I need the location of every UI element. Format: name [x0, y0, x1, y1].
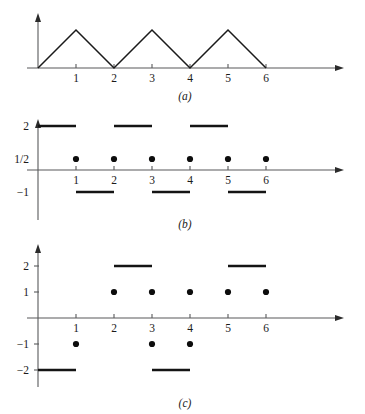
x-tick-label-4: 4 — [187, 322, 193, 334]
data-point-5 — [263, 156, 269, 162]
panel-a-tick-labels: 123456 — [73, 72, 269, 84]
data-point-3 — [225, 289, 231, 295]
x-tick-label-6: 6 — [263, 72, 269, 84]
series-triangle-wave — [38, 30, 266, 68]
panel-b-plot: 123456 21/2−1 (b) — [0, 110, 365, 235]
y-tick-label-0: 2 — [23, 120, 29, 132]
x-tick-label-2: 2 — [111, 174, 117, 186]
x-tick-label-3: 3 — [149, 174, 155, 186]
x-tick-label-1: 1 — [73, 72, 79, 84]
panel-a-series — [38, 30, 266, 68]
panel-b-axes — [27, 119, 344, 220]
x-axis-arrow-icon — [335, 167, 344, 173]
x-tick-label-1: 1 — [73, 174, 79, 186]
panel-c: 123456 21−1−2 (c) — [0, 235, 365, 414]
x-tick-label-4: 4 — [187, 72, 193, 84]
x-axis-arrow-icon — [335, 315, 344, 321]
y-tick-label-2: −1 — [17, 186, 29, 198]
panel-b: 123456 21/2−1 (b) — [0, 110, 365, 235]
figure-container: 123456 (a) 123456 21/2−1 (b) — [0, 0, 365, 414]
x-tick-label-2: 2 — [111, 72, 117, 84]
x-tick-label-6: 6 — [263, 322, 269, 334]
panel-a-ticks — [76, 64, 266, 68]
data-point-4 — [225, 156, 231, 162]
data-point-7 — [187, 341, 193, 347]
panel-a: 123456 (a) — [0, 0, 365, 110]
x-tick-label-4: 4 — [187, 174, 193, 186]
data-point-3 — [187, 156, 193, 162]
panel-c-axes — [27, 244, 344, 387]
data-point-6 — [149, 341, 155, 347]
data-point-2 — [149, 156, 155, 162]
data-point-4 — [263, 289, 269, 295]
panel-b-ticks — [76, 166, 266, 170]
panel-c-caption: (c) — [179, 397, 192, 410]
panel-b-points — [73, 156, 269, 162]
data-point-1 — [111, 156, 117, 162]
y-axis-arrow-icon — [35, 13, 41, 22]
y-tick-label-2: −1 — [17, 338, 29, 350]
panel-b-axis-labels: 21/2−1 — [14, 120, 29, 198]
panel-a-plot: 123456 (a) — [0, 0, 365, 110]
x-tick-label-3: 3 — [149, 72, 155, 84]
y-axis-arrow-icon — [35, 244, 41, 253]
x-tick-label-5: 5 — [225, 322, 231, 334]
x-axis-arrow-icon — [335, 65, 344, 71]
data-point-5 — [73, 341, 79, 347]
panel-c-plot: 123456 21−1−2 (c) — [0, 235, 365, 414]
x-tick-label-3: 3 — [149, 322, 155, 334]
x-tick-label-5: 5 — [225, 72, 231, 84]
x-tick-label-5: 5 — [225, 174, 231, 186]
y-tick-label-1: 1/2 — [14, 153, 29, 165]
y-tick-label-3: −2 — [17, 364, 29, 376]
x-tick-label-6: 6 — [263, 174, 269, 186]
panel-b-caption: (b) — [178, 218, 192, 231]
data-point-1 — [149, 289, 155, 295]
data-point-2 — [187, 289, 193, 295]
x-tick-label-1: 1 — [73, 322, 79, 334]
panel-c-tick-labels: 123456 — [73, 322, 269, 334]
panel-a-caption: (a) — [178, 90, 192, 103]
x-tick-label-2: 2 — [111, 322, 117, 334]
data-point-0 — [111, 289, 117, 295]
panel-a-axes — [27, 13, 344, 71]
panel-b-tick-labels: 123456 — [73, 174, 269, 186]
y-tick-label-1: 1 — [23, 286, 29, 298]
data-point-0 — [73, 156, 79, 162]
y-tick-label-0: 2 — [23, 260, 29, 272]
